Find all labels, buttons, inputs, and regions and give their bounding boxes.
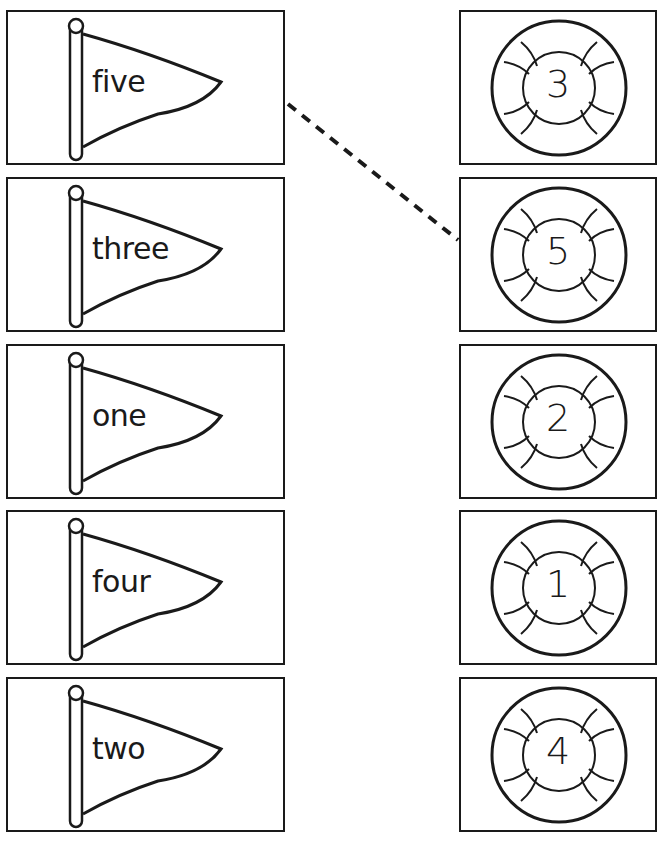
flag-card-five[interactable]: five xyxy=(6,10,285,165)
flag-card-two[interactable]: two xyxy=(6,677,285,832)
flag-word: one xyxy=(92,398,146,433)
ring-card-3[interactable]: 3 xyxy=(459,10,657,165)
ring-card-1[interactable]: 1 xyxy=(459,510,657,665)
ring-card-4[interactable]: 4 xyxy=(459,677,657,832)
ring-number: 1 xyxy=(461,562,655,606)
flag-word: five xyxy=(92,64,145,99)
ring-card-2[interactable]: 2 xyxy=(459,344,657,499)
ring-card-5[interactable]: 5 xyxy=(459,177,657,332)
flag-word: three xyxy=(92,231,169,266)
ring-number: 4 xyxy=(461,729,655,773)
ring-number: 5 xyxy=(461,229,655,273)
flag-icon xyxy=(8,679,284,831)
flag-word: four xyxy=(92,564,150,599)
flag-card-four[interactable]: four xyxy=(6,510,285,665)
flag-word: two xyxy=(92,731,145,766)
ring-number: 3 xyxy=(461,62,655,106)
ring-number: 2 xyxy=(461,396,655,440)
flag-card-three[interactable]: three xyxy=(6,177,285,332)
flag-card-one[interactable]: one xyxy=(6,344,285,499)
flag-icon xyxy=(8,12,284,164)
